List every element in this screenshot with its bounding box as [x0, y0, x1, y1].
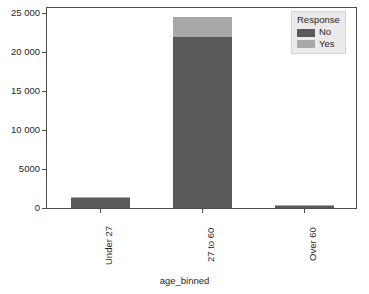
bar-under-27: [71, 197, 130, 208]
x-tick-label-over-60: Over 60: [308, 227, 318, 261]
y-tick-label-20000: 20 000: [11, 47, 40, 57]
bar-segment-no: [71, 198, 130, 208]
bar-segment-no: [275, 205, 334, 208]
bar-segment-yes: [71, 197, 130, 198]
x-tick-label-27-to-60: 27 to 60: [206, 228, 216, 262]
x-tick-mark-under-27: [100, 209, 101, 213]
x-tick-label-under-27: Under 27: [104, 226, 114, 265]
legend-label-yes: Yes: [319, 39, 335, 49]
y-axis-tick-labels: 0 5000 10 000 15 000 20 000 25 000: [0, 0, 40, 294]
legend-swatch-no-icon: [297, 29, 315, 37]
y-tick-label-10000: 10 000: [11, 125, 40, 135]
chart-figure: 0 5000 10 000 15 000 20 000 25 000 Under…: [0, 0, 369, 294]
bar-segment-yes: [173, 17, 232, 37]
legend-title: Response: [297, 15, 340, 25]
y-tick-label-5000: 5000: [19, 164, 40, 174]
y-tick-label-25000: 25 000: [11, 8, 40, 18]
bar-over-60: [275, 205, 334, 208]
legend-swatch-yes-icon: [297, 40, 315, 48]
y-tick-label-0: 0: [35, 203, 40, 213]
bar-27-to-60: [173, 17, 232, 208]
legend-label-no: No: [319, 27, 331, 37]
legend-item-no[interactable]: No: [297, 27, 340, 37]
x-tick-mark-over-60: [304, 209, 305, 213]
legend: Response No Yes: [291, 11, 346, 54]
y-tick-label-15000: 15 000: [11, 86, 40, 96]
bar-segment-no: [173, 37, 232, 208]
x-tick-mark-27-to-60: [202, 209, 203, 213]
x-axis-title: age_binned: [0, 275, 369, 286]
legend-item-yes[interactable]: Yes: [297, 39, 340, 49]
